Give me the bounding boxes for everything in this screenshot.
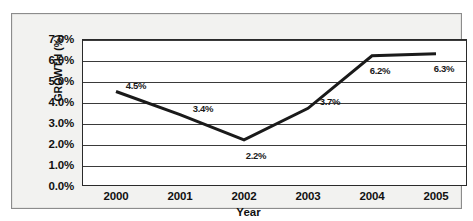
data-point-label: 3.4%: [176, 103, 230, 114]
gridline: [83, 166, 466, 167]
chart-outer-frame: GROWTH (%) Year 7.0%6.0%5.0%4.0%3.0%2.0%…: [11, 13, 462, 209]
gridline: [83, 145, 466, 146]
y-axis-tick-label: 2.0%: [12, 138, 74, 150]
y-axis-tick-label: 0.0%: [12, 180, 74, 192]
data-point-label: 6.2%: [353, 65, 407, 76]
y-axis-tick-label: 6.0%: [12, 54, 74, 66]
gridline: [83, 40, 466, 41]
data-point-label: 2.2%: [229, 150, 283, 161]
data-point-label: 6.3%: [417, 63, 471, 74]
plot-area: [82, 39, 467, 186]
y-axis-tick-label: 1.0%: [12, 159, 74, 171]
y-axis-tick-label: 5.0%: [12, 75, 74, 87]
gridline: [83, 124, 466, 125]
x-axis-tick-label: 2003: [278, 190, 338, 202]
x-axis-tick-label: 2004: [342, 190, 402, 202]
y-axis-tick-label: 7.0%: [12, 33, 74, 45]
y-axis-tick-label: 3.0%: [12, 117, 74, 129]
gridline: [83, 61, 466, 62]
gridline: [83, 103, 466, 104]
x-axis-tick-label: 2002: [214, 190, 274, 202]
x-axis-tick-label: 2001: [150, 190, 210, 202]
chart-figure: GROWTH (%) Year 7.0%6.0%5.0%4.0%3.0%2.0%…: [0, 0, 473, 221]
x-axis-title: Year: [12, 206, 473, 218]
data-point-label: 4.5%: [109, 80, 163, 91]
y-axis-tick-label: 4.0%: [12, 96, 74, 108]
x-axis-tick-label: 2005: [406, 190, 466, 202]
data-point-label: 3.7%: [303, 96, 357, 107]
x-axis-tick-label: 2000: [86, 190, 146, 202]
